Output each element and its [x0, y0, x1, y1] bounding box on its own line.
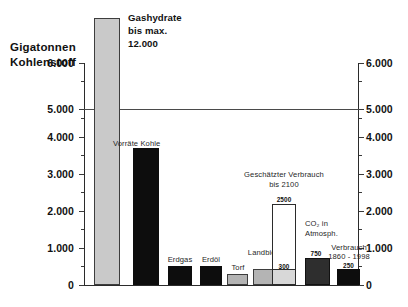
y-label-left-4000: 4.000 — [47, 131, 74, 143]
y-tick-right-4500 — [359, 118, 362, 119]
value-label-2500: 2500 — [272, 196, 296, 203]
annotation-gashydrate-line2: bis max. — [128, 25, 167, 37]
annotation-torf: Torf — [218, 263, 258, 273]
y-label-left-6000: 6.000 — [47, 57, 74, 69]
bar-verbrauch-2100 — [272, 204, 296, 285]
bar-erdgas — [168, 266, 192, 285]
y-tick-right-3000 — [359, 174, 364, 175]
y-tick-left-3000 — [79, 174, 84, 175]
bar-verbrauch-1860 — [337, 269, 360, 285]
value-label-300: 300 — [272, 263, 296, 270]
y-label-left-2000: 2.000 — [47, 205, 74, 217]
y-tick-left-5500 — [81, 81, 84, 82]
annotation-verbrauch-2100-line2: bis 2100 — [222, 180, 346, 190]
y-label-left-5000: 5.000 — [47, 103, 74, 115]
y-tick-right-4000 — [359, 137, 364, 138]
y-label-left-0: 0 — [68, 279, 74, 291]
annotation-verbrauch-1860-line2: 1860 - 1998 — [318, 252, 380, 262]
annotation-co2-line1: CO₂ in — [305, 219, 328, 229]
y-tick-right-6000 — [359, 63, 364, 64]
y-tick-right-2500 — [359, 192, 362, 193]
y-tick-left-1000 — [79, 248, 84, 249]
y-label-right-5000: 5.000 — [366, 103, 393, 115]
y-tick-right-1500 — [359, 229, 362, 230]
annotation-gashydrate-line1: Gashydrate — [128, 12, 182, 24]
y-label-left-3000: 3.000 — [47, 168, 74, 180]
y-tick-right-5500 — [359, 81, 362, 82]
y-label-right-6000: 6.000 — [366, 57, 393, 69]
y-tick-right-2000 — [359, 211, 364, 212]
y-tick-left-3500 — [81, 155, 84, 156]
y-tick-right-0 — [359, 285, 364, 286]
y-axis-left-line — [84, 63, 85, 286]
y-tick-right-3500 — [359, 155, 362, 156]
y-label-left-1000: 1.000 — [47, 242, 74, 254]
bar-verbrauch-2100-inner-300 — [273, 269, 295, 284]
y-tick-left-0 — [79, 285, 84, 286]
value-label-250: 250 — [337, 262, 360, 269]
bar-gashydrate — [94, 18, 120, 285]
y-tick-left-2000 — [79, 211, 84, 212]
y-label-right-2000: 2.000 — [366, 205, 393, 217]
y-tick-left-500 — [81, 266, 84, 267]
annotation-verbrauch-2100-line1: Geschätzter Verbrauch — [222, 170, 346, 180]
bar-torf — [227, 274, 248, 285]
annotation-vorraete-kohle: Vorräte Kohle — [113, 139, 160, 149]
y-tick-left-6000 — [79, 63, 84, 64]
y-tick-left-5000 — [79, 109, 84, 110]
y-label-right-0: 0 — [366, 279, 372, 291]
y-tick-left-4500 — [81, 118, 84, 119]
x-axis-baseline — [84, 285, 359, 286]
y-tick-left-2500 — [81, 192, 84, 193]
y-label-right-4000: 4.000 — [366, 131, 393, 143]
y-label-right-3000: 3.000 — [366, 168, 393, 180]
annotation-co2-line2: Atmosph. — [305, 229, 338, 239]
annotation-gashydrate-line3: 12.000 — [128, 38, 158, 50]
bar-chart: Gigatonnen Kohlenstoff 0 1.000 2.000 3.0… — [0, 0, 408, 307]
y-tick-left-4000 — [79, 137, 84, 138]
y-tick-left-1500 — [81, 229, 84, 230]
y-tick-right-5000 — [359, 109, 364, 110]
bar-co2-atmosph — [305, 258, 330, 285]
bar-vorraete-kohle — [133, 148, 159, 285]
reference-line-5000 — [84, 109, 359, 110]
